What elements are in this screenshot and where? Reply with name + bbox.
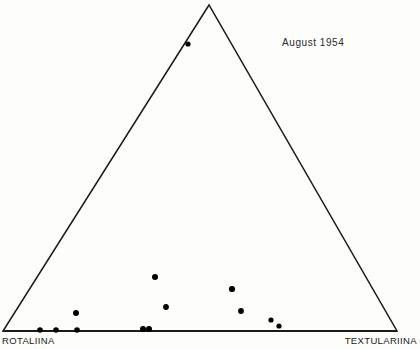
title-month: August [282,37,317,48]
data-point [37,327,43,333]
data-point [140,326,146,332]
data-point [238,308,244,314]
axis-label-textulariina: TEXTULARIINA [345,336,417,346]
data-point [73,310,79,316]
data-point [146,326,152,332]
data-point [229,286,235,292]
data-point [276,323,281,328]
chart-title: August1954 [282,38,344,48]
ternary-plot-canvas [0,0,420,349]
data-point [268,317,273,322]
data-point [163,304,169,310]
data-point [152,274,158,280]
data-point [74,327,80,333]
axis-label-rotaliina: ROTALIINA [2,336,55,346]
data-point [185,41,190,46]
title-year: 1954 [320,37,345,48]
plot-background [0,0,420,349]
ternary-diagram-figure: August1954 ROTALIINA TEXTULARIINA [0,0,420,349]
data-point [53,327,59,333]
